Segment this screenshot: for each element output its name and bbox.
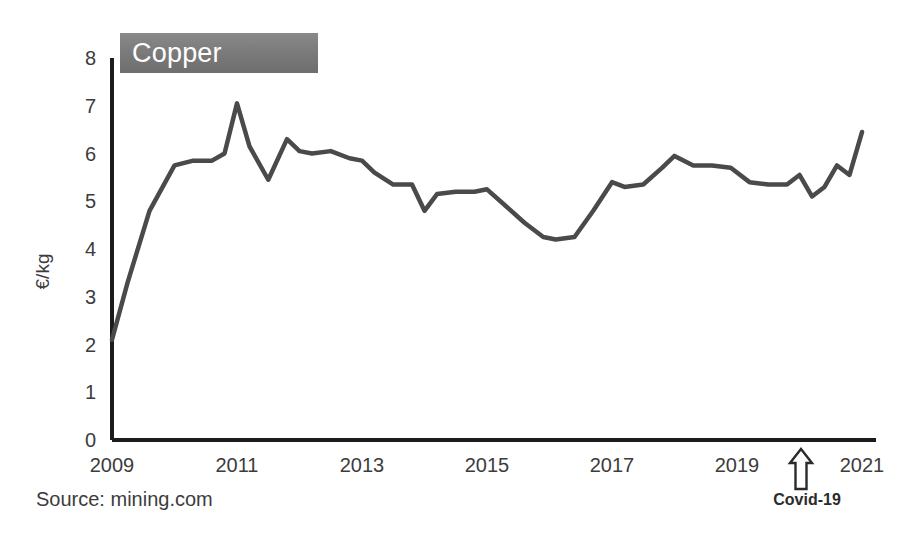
y-tick-7: 7 — [62, 96, 96, 116]
copper-price-chart: Copper €/kg 012345678 200920112013201520… — [0, 0, 905, 545]
y-tick-1: 1 — [62, 382, 96, 402]
source-note: Source: mining.com — [36, 489, 213, 509]
y-tick-2: 2 — [62, 335, 96, 355]
copper-price-line — [112, 103, 862, 339]
x-tick-2019: 2019 — [692, 455, 782, 475]
y-axis-title: €/kg — [33, 242, 52, 302]
x-tick-2011: 2011 — [192, 455, 282, 475]
x-tick-2015: 2015 — [442, 455, 532, 475]
y-tick-4: 4 — [62, 239, 96, 259]
y-tick-8: 8 — [62, 48, 96, 68]
series-title-label: Copper — [132, 40, 222, 67]
x-tick-2017: 2017 — [567, 455, 657, 475]
covid-annotation-label: Covid-19 — [752, 492, 862, 508]
y-tick-0: 0 — [62, 430, 96, 450]
y-tick-5: 5 — [62, 191, 96, 211]
x-tick-2021: 2021 — [817, 455, 905, 475]
y-tick-3: 3 — [62, 287, 96, 307]
x-tick-2013: 2013 — [317, 455, 407, 475]
series-title-badge: Copper — [120, 33, 318, 73]
y-tick-6: 6 — [62, 144, 96, 164]
x-tick-2009: 2009 — [67, 455, 157, 475]
covid-arrow-up-outline-icon — [790, 449, 812, 489]
